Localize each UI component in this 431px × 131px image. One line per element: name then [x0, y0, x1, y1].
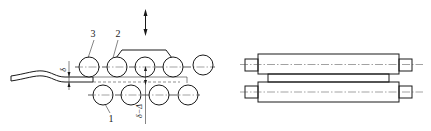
label-1: 1 — [105, 104, 114, 124]
roll-label-2: 2 — [116, 28, 121, 39]
diagram-canvas: δ δ−Δ 3 2 1 — [0, 0, 431, 131]
left-gap-label: δ — [59, 68, 68, 72]
top-rolls — [79, 55, 213, 77]
upper-roll-end-view — [240, 54, 423, 74]
lower-roll-end-view — [240, 82, 423, 102]
roller-leveler-diagram: δ δ−Δ 3 2 1 — [0, 0, 431, 131]
strip-path-dashed — [93, 77, 187, 83]
bottom-gap-label: δ−Δ — [135, 104, 144, 118]
end-view — [240, 54, 423, 102]
roll-label-3: 3 — [91, 28, 96, 39]
top-roll — [193, 55, 213, 75]
side-view: δ δ−Δ 3 2 1 — [11, 9, 215, 124]
roll-label-1: 1 — [109, 113, 114, 124]
hatched-strip — [268, 74, 389, 82]
label-3: 3 — [88, 28, 96, 58]
left-gap-dimension: δ — [59, 61, 71, 90]
up-down-arrow-icon — [144, 9, 148, 36]
